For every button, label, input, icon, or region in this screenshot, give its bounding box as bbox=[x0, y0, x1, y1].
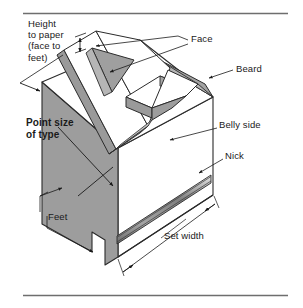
label-height-to-paper-line1: Height bbox=[28, 18, 56, 29]
label-point-size-of-type: Point sizeof type bbox=[26, 117, 74, 141]
label-feet: Feet bbox=[48, 211, 67, 222]
type-anatomy-figure: Heightto paper(face tofeet) Face Beard B… bbox=[0, 0, 303, 308]
label-height-to-paper: Heightto paper(face tofeet) bbox=[28, 18, 64, 63]
label-point-size-line1: Point size bbox=[26, 117, 74, 128]
label-height-to-paper-line2: to paper bbox=[28, 29, 64, 40]
label-belly-side: Belly side bbox=[219, 119, 261, 130]
label-beard: Beard bbox=[236, 63, 262, 74]
leader-beard bbox=[209, 70, 233, 78]
label-set-width: Set width bbox=[164, 230, 204, 241]
label-height-to-paper-line4: feet) bbox=[28, 52, 48, 63]
label-nick: Nick bbox=[225, 150, 244, 161]
label-height-to-paper-line3: (face to bbox=[28, 40, 60, 51]
label-point-size-line2: of type bbox=[26, 129, 59, 140]
label-face: Face bbox=[191, 33, 213, 44]
